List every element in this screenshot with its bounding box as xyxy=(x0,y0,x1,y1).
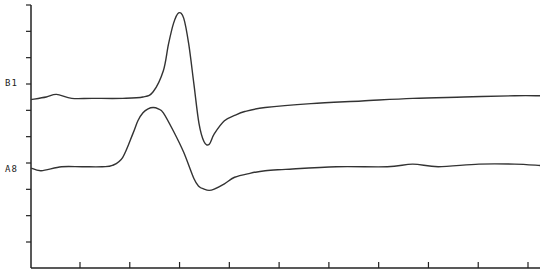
series-line-a8 xyxy=(31,108,540,191)
series-label-b1: B1 xyxy=(5,78,18,88)
axes xyxy=(31,5,540,268)
chart xyxy=(0,0,547,273)
series-label-a8: A8 xyxy=(5,164,18,174)
x-ticks xyxy=(80,262,528,268)
series-lines xyxy=(31,13,540,191)
series-line-b1 xyxy=(31,13,540,145)
